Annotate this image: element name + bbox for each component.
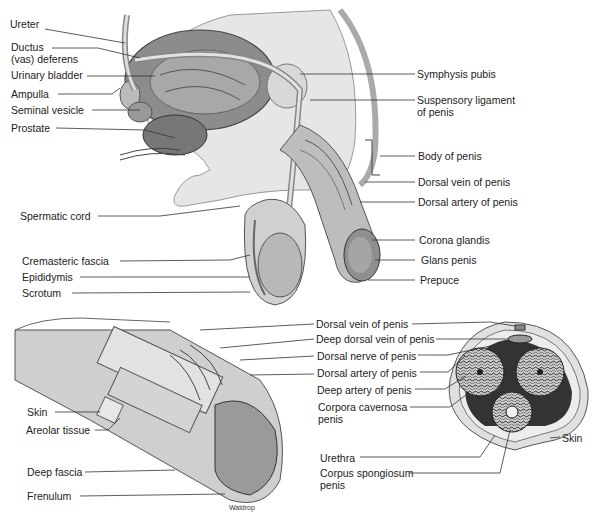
label-deep-fascia: Deep fascia (27, 466, 82, 478)
label-glans-penis: Glans penis (421, 254, 476, 266)
label-ureter: Ureter (10, 18, 39, 30)
label-cremasteric-fascia: Cremasteric fascia (22, 255, 109, 267)
label-urinary-bladder: Urinary bladder (11, 69, 83, 81)
label-skin-dissected: Skin (27, 406, 47, 418)
label-body-of-penis: Body of penis (418, 150, 482, 162)
label-dorsal-artery-cross: Dorsal artery of penis (317, 367, 417, 379)
label-corpus-spongiosum: Corpus spongiosum penis (320, 467, 413, 491)
label-prepuce: Prepuce (420, 274, 459, 286)
label-spermatic-cord: Spermatic cord (20, 210, 91, 222)
label-dorsal-vein-cross: Dorsal vein of penis (316, 318, 408, 330)
cross-section (449, 322, 588, 450)
label-frenulum: Frenulum (27, 490, 71, 502)
label-corpora-cavernosa: Corpora cavernosa penis (318, 401, 407, 425)
label-skin-cross: Skin (562, 432, 582, 444)
label-dorsal-artery-sagittal: Dorsal artery of penis (418, 196, 518, 208)
label-ampulla: Ampulla (11, 88, 49, 100)
credit-label: Waldrop (229, 504, 255, 512)
label-corona-glandis: Corona glandis (419, 234, 490, 246)
label-deep-dorsal-vein: Deep dorsal vein of penis (316, 333, 435, 345)
label-epididymis: Epididymis (22, 271, 73, 283)
label-ductus-deferens: Ductus (vas) deferens (11, 41, 78, 65)
label-suspensory-ligament: Suspensory ligament of penis (417, 94, 515, 118)
label-scrotum: Scrotum (22, 287, 61, 299)
label-deep-artery: Deep artery of penis (317, 384, 412, 396)
label-areolar-tissue: Areolar tissue (26, 424, 90, 436)
label-prostate: Prostate (11, 122, 50, 134)
label-urethra: Urethra (320, 452, 355, 464)
label-dorsal-vein-sagittal: Dorsal vein of penis (418, 176, 510, 188)
label-dorsal-nerve: Dorsal nerve of penis (317, 350, 416, 362)
label-symphysis-pubis: Symphysis pubis (417, 68, 496, 80)
label-seminal-vesicle: Seminal vesicle (11, 104, 84, 116)
